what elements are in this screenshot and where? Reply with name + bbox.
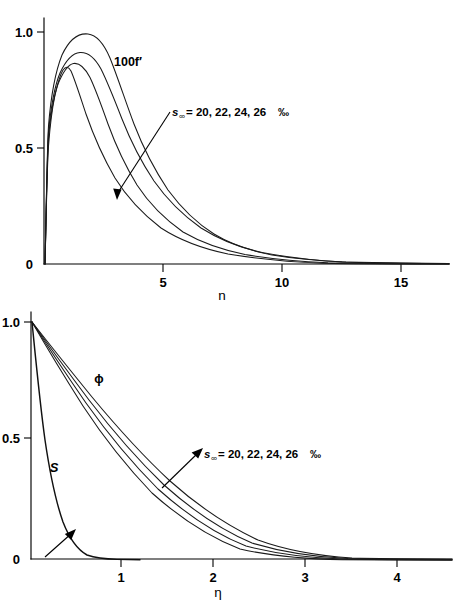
bottom-xticklabel-4: 4 <box>393 570 401 585</box>
bottom-curve-phi-sinf-20 <box>32 322 452 559</box>
bottom-curve-s <box>32 322 140 560</box>
top-curve-group-label: 100f′ <box>114 55 142 69</box>
bottom-yticklabel-0.5: 0.5 <box>2 431 20 446</box>
figure-root: 1.0 0.5 0 5 10 15 η 100f′ s ∞ = 20, 22, … <box>0 0 456 601</box>
bottom-annotation-unit: ‰ <box>310 448 321 460</box>
bottom-annotation-subscript: ∞ <box>211 453 217 463</box>
top-yticklabel-0: 0 <box>26 257 33 272</box>
top-xticklabel-10: 10 <box>275 275 289 290</box>
top-xticklabel-15: 15 <box>394 275 408 290</box>
bottom-annotation-arrow <box>162 448 203 488</box>
bottom-curve-phi-sinf-24 <box>32 322 452 560</box>
bottom-annotation-symbol: s <box>204 448 210 460</box>
bottom-curve-phi-sinf-26 <box>32 322 452 560</box>
bottom-yticklabel-0: 0 <box>13 552 20 567</box>
bottom-s-curve-arrow <box>45 529 76 557</box>
top-xaxis-label: η <box>218 288 226 300</box>
bottom-chart-svg: 1.0 0.5 0 1 2 3 4 η ϕ S s ∞ <box>0 300 456 601</box>
bottom-s-label: S <box>50 460 59 475</box>
bottom-curve-phi-sinf-22 <box>32 322 452 560</box>
top-annotation-subscript: ∞ <box>179 111 185 121</box>
top-chart-svg: 1.0 0.5 0 5 10 15 η 100f′ s ∞ = 20, 22, … <box>0 0 456 300</box>
top-xticklabel-5: 5 <box>159 275 166 290</box>
top-curve-sinf-26 <box>45 67 449 264</box>
chart-panel-top: 1.0 0.5 0 5 10 15 η 100f′ s ∞ = 20, 22, … <box>0 0 456 300</box>
chart-panel-bottom: 1.0 0.5 0 1 2 3 4 η ϕ S s ∞ <box>0 300 456 601</box>
bottom-xaxis-label: η <box>214 585 222 600</box>
bottom-xticklabel-1: 1 <box>117 570 124 585</box>
top-annotation-unit: ‰ <box>278 106 289 118</box>
bottom-annotation-group: s ∞ = 20, 22, 24, 26 ‰ <box>204 448 321 463</box>
top-annotation-group: s ∞ = 20, 22, 24, 26 ‰ <box>172 106 289 121</box>
bottom-annotation-values: = 20, 22, 24, 26 <box>218 448 298 460</box>
bottom-yticklabel-1: 1.0 <box>2 315 20 330</box>
bottom-xticklabel-3: 3 <box>301 570 308 585</box>
top-annotation-values: = 20, 22, 24, 26 <box>186 106 266 118</box>
top-yticklabel-0.5: 0.5 <box>15 141 33 156</box>
top-curve-sinf-22 <box>45 52 449 264</box>
top-curve-sinf-24 <box>45 63 449 264</box>
top-annotation-symbol: s <box>172 106 178 118</box>
bottom-xticklabel-2: 2 <box>209 570 216 585</box>
top-curve-sinf-20 <box>45 34 449 264</box>
bottom-phi-label: ϕ <box>94 372 103 386</box>
top-yticklabel-1: 1.0 <box>15 25 33 40</box>
